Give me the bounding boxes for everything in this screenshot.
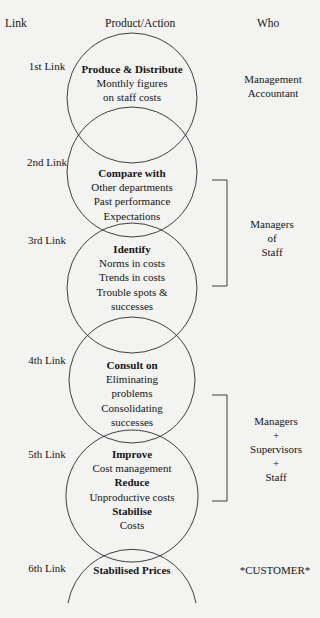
link-5-action: Stabilise	[62, 504, 202, 518]
link-2-detail: Past performance	[62, 194, 202, 208]
link-1-action: Produce & Distribute	[62, 62, 202, 76]
link-3-content: Identify Norms in costs Trends in costs …	[62, 242, 202, 313]
who-line: of	[232, 231, 312, 245]
link-3-detail: Trouble spots &	[62, 285, 202, 299]
who-customer: *CUSTOMER*	[230, 563, 320, 577]
link-6-action: Stabilised Prices	[62, 563, 202, 577]
link-5-action: Reduce	[62, 475, 202, 489]
who-line: Staff	[236, 470, 316, 484]
link-3-detail: successes	[62, 299, 202, 313]
who-line: Managers	[232, 217, 312, 231]
who-line: +	[236, 428, 316, 442]
link-3-detail: Norms in costs	[62, 256, 202, 270]
link-5-detail: Cost management	[62, 461, 202, 475]
link-3-action: Identify	[62, 242, 202, 256]
link-4-detail: successes	[62, 415, 202, 429]
who-line: +	[236, 456, 316, 470]
link-2-detail: Expectations	[62, 209, 202, 223]
link-2-detail: Other departments	[62, 180, 202, 194]
who-line: Managers	[236, 414, 316, 428]
header-product-action: Product/Action	[105, 17, 175, 29]
who-line: Supervisors	[236, 442, 316, 456]
who-line: Staff	[232, 245, 312, 259]
link-3-detail: Trends in costs	[62, 270, 202, 284]
link-2-action: Compare with	[62, 166, 202, 180]
link-6-content: Stabilised Prices	[62, 563, 202, 577]
link-2-content: Compare with Other departments Past perf…	[62, 166, 202, 223]
header-who: Who	[257, 17, 279, 29]
header-link: Link	[5, 17, 27, 29]
link-5-detail: Unproductive costs	[62, 490, 202, 504]
link-5-content: Improve Cost management Reduce Unproduct…	[62, 447, 202, 532]
bracket-managers-of-staff	[212, 180, 227, 286]
link-4-detail: Eliminating	[62, 372, 202, 386]
who-managers-of-staff: Managers of Staff	[232, 217, 312, 259]
link-1-content: Produce & Distribute Monthly figures on …	[62, 62, 202, 105]
link-4-action: Consult on	[62, 358, 202, 372]
link-4-detail: Consolidating	[62, 401, 202, 415]
who-line: Management	[228, 72, 318, 86]
link-1-detail: on staff costs	[62, 90, 202, 104]
link-1-detail: Monthly figures	[62, 76, 202, 90]
link-4-content: Consult on Eliminating problems Consolid…	[62, 358, 202, 429]
who-managers-supervisors-staff: Managers + Supervisors + Staff	[236, 414, 316, 484]
who-line: Accountant	[228, 86, 318, 100]
who-management-accountant: Management Accountant	[228, 72, 318, 100]
link-5-detail: Costs	[62, 518, 202, 532]
link-4-detail: problems	[62, 386, 202, 400]
bracket-managers-supervisors-staff	[212, 395, 227, 501]
link-5-action: Improve	[62, 447, 202, 461]
